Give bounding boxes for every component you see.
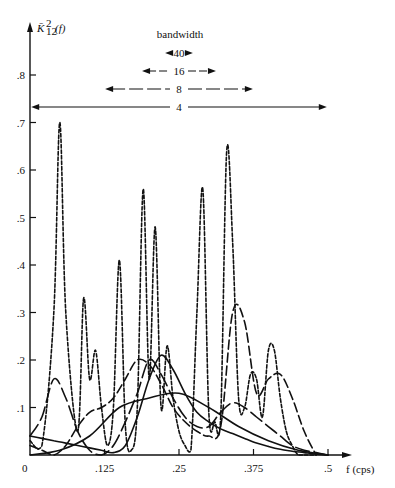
y-tick-label: .4 bbox=[17, 259, 26, 271]
legend-entry-40: 40 bbox=[165, 47, 193, 59]
legend-entry-16: 16 bbox=[142, 65, 216, 77]
legend-title: bandwidth bbox=[157, 28, 204, 40]
series-curve-3 bbox=[30, 355, 328, 455]
arrow-left-icon bbox=[105, 86, 113, 92]
axes bbox=[27, 22, 352, 458]
y-tick-label: .6 bbox=[17, 164, 26, 176]
legend-label: 40 bbox=[174, 47, 186, 59]
x-axis-arrow-icon bbox=[342, 452, 352, 458]
arrow-left-icon bbox=[31, 104, 39, 110]
x-tick-label: .5 bbox=[324, 462, 333, 474]
legend-label: 8 bbox=[176, 83, 182, 95]
coherence-chart: .1.2.3.4.5.6.7.8 .125.25.375.5 0 K̄ 2 12… bbox=[0, 0, 395, 488]
arrow-right-icon bbox=[245, 86, 253, 92]
legend-label: 16 bbox=[174, 65, 186, 77]
bandwidth-legend: bandwidth 401684 bbox=[31, 28, 327, 113]
origin-label: 0 bbox=[22, 462, 28, 474]
arrow-right-icon bbox=[185, 50, 193, 56]
y-tick-label: .3 bbox=[17, 307, 26, 319]
x-tick-label: .25 bbox=[172, 462, 186, 474]
legend-entry-8: 8 bbox=[105, 83, 253, 95]
arrow-right-icon bbox=[208, 68, 216, 74]
series-curve-0 bbox=[30, 123, 316, 456]
y-axis-label: K̄ 2 12 (f) bbox=[36, 17, 66, 37]
x-tick-label: .125 bbox=[95, 462, 115, 474]
y-tick-label: .1 bbox=[17, 402, 25, 414]
y-tick-label: .2 bbox=[17, 354, 25, 366]
y-tick-label: .7 bbox=[17, 117, 26, 129]
legend-entry-4: 4 bbox=[31, 101, 327, 113]
curves bbox=[30, 123, 328, 456]
y-axis-arrow-icon bbox=[27, 22, 33, 32]
series-curve-1 bbox=[30, 304, 316, 455]
y-ticks: .1.2.3.4.5.6.7.8 bbox=[17, 69, 36, 414]
y-tick-label: .8 bbox=[17, 69, 26, 81]
arrow-left-icon bbox=[142, 68, 150, 74]
series-curve-2 bbox=[30, 359, 328, 455]
x-axis-label: f (cps) bbox=[346, 463, 375, 476]
arrow-right-icon bbox=[319, 104, 327, 110]
y-label-main: K̄ bbox=[36, 22, 45, 34]
arrow-left-icon bbox=[165, 50, 173, 56]
legend-label: 4 bbox=[176, 101, 182, 113]
y-label-arg: (f) bbox=[55, 22, 66, 35]
y-tick-label: .5 bbox=[17, 212, 26, 224]
x-tick-label: .375 bbox=[244, 462, 264, 474]
